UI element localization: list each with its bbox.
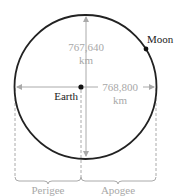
moon-dot xyxy=(144,47,149,52)
earth-dot xyxy=(78,84,83,89)
moon-label: Moon xyxy=(147,33,174,45)
perigee-label: Perigee xyxy=(32,184,65,196)
vertical-distance-value: 767,640 xyxy=(68,41,104,53)
apogee-label: Apogee xyxy=(101,184,135,196)
vertical-distance-unit: km xyxy=(79,54,94,66)
earth-label: Earth xyxy=(54,90,78,102)
orbit-diagram: Moon Earth 767,640 km 768,800 km Perigee… xyxy=(0,0,182,196)
horizontal-distance-value: 768,800 xyxy=(102,81,138,93)
horizontal-distance-unit: km xyxy=(113,94,128,106)
apogee-brace xyxy=(81,177,156,184)
perigee-brace xyxy=(15,177,81,184)
